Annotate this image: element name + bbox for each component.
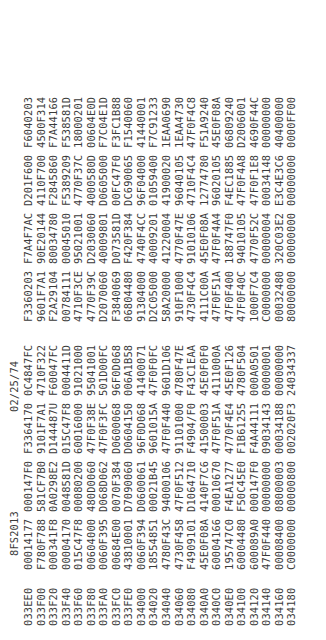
word-group-gap — [173, 322, 186, 338]
row-address: 034120 — [248, 570, 261, 626]
hex-dump-page: 8FS2013 02/25/74 033EE000014177000147F0F… — [0, 0, 326, 640]
dump-row: 033F00F780F788581CF7B09101F7A14710F32296… — [35, 90, 48, 626]
hex-word: D2030060 — [85, 206, 98, 264]
row-address: 034020 — [147, 570, 160, 626]
hex-word: F3840069 — [110, 264, 123, 322]
hex-word: 96F04000 — [135, 148, 148, 206]
word-group-gap — [110, 322, 123, 338]
word-group-gap — [147, 322, 160, 338]
hex-word: 910F1000 — [173, 264, 186, 322]
hex-word: 0048581D — [60, 454, 73, 512]
hex-word: 000341F8 — [47, 512, 60, 570]
hex-word: 47F0F4C8 — [185, 90, 198, 148]
word-group-gap — [47, 322, 60, 338]
hex-word: 501D00FC — [97, 338, 110, 396]
hex-word: 47F0F512 — [173, 454, 186, 512]
hex-word: 96F0D068 — [110, 338, 123, 396]
hex-word: 58A20000 — [160, 264, 173, 322]
hex-word: 96020105 — [210, 148, 223, 206]
hex-word: D0605000 — [97, 148, 110, 206]
hex-word: 00000000 — [273, 338, 286, 396]
hex-word: 1EAA0690 — [160, 90, 173, 148]
hex-word: F7C91233 — [147, 90, 160, 148]
hex-word: 9601015A — [147, 396, 160, 454]
hex-word: 41440001 — [135, 90, 148, 148]
row-address: 0340A0 — [198, 570, 211, 626]
hex-word: 91021000 — [72, 338, 85, 396]
hex-word: 95021001 — [72, 206, 85, 264]
hex-word: 0060F394 — [135, 512, 148, 570]
hex-word: 600089A0 — [248, 512, 261, 570]
hex-word: 60004480 — [235, 512, 248, 570]
hex-word: 95041001 — [85, 338, 98, 396]
dump-row: 0340E0195747C0F4EA12774770F4E445E0F12647… — [223, 90, 236, 626]
hex-word: 41400071 — [135, 338, 148, 396]
hex-word: 40009801 — [97, 206, 110, 264]
dump-row: 0341600000840008000003000341880000000000… — [273, 90, 286, 626]
dump-row: 033EE000014177000147F0F33641700C4847FCF3… — [22, 90, 35, 626]
hex-word: 4740F4CC — [135, 206, 148, 264]
row-address: 033F20 — [47, 570, 60, 626]
row-address: 034080 — [185, 570, 198, 626]
hex-word: 00000004 — [260, 206, 273, 264]
hex-word: 96F0D068 — [135, 396, 148, 454]
hex-word: 43810001 — [122, 512, 135, 570]
hex-word: 47F0F51A — [210, 264, 223, 322]
hex-word: 45E0F126 — [223, 338, 236, 396]
row-address: 034060 — [173, 570, 186, 626]
row-address: 034140 — [260, 570, 273, 626]
row-address: 033F40 — [60, 570, 73, 626]
hex-word: 47F0F1E8 — [248, 148, 261, 206]
hex-word: 4770F52C — [248, 206, 261, 264]
word-group-gap — [135, 322, 148, 338]
hex-word: 24034337 — [285, 338, 298, 396]
row-address: 033FE0 — [122, 570, 135, 626]
word-group-gap — [273, 322, 286, 338]
hex-word: 60004166 — [210, 512, 223, 570]
hex-word: F3360203 — [22, 264, 35, 322]
hex-word: F6040203 — [22, 90, 35, 148]
hex-word: 12774780 — [198, 148, 211, 206]
dump-row: 033F40000041700048581D015C47F80004411D00… — [60, 90, 73, 626]
dump-row: 033FC000684E000070F384D060006896F0D068F3… — [110, 90, 123, 626]
hex-word: D7090060 — [122, 454, 135, 512]
hex-word: 0070F384 — [110, 454, 123, 512]
hex-word: 00784111 — [60, 264, 73, 322]
hex-word: 60016000 — [72, 396, 85, 454]
hex-word: D068D062 — [97, 454, 110, 512]
hex-word: 00014177 — [22, 512, 35, 570]
hex-word: 90E20144 — [35, 206, 48, 264]
dump-row: 0340604730F45847F0F512911010004780F47E91… — [173, 90, 186, 626]
hex-word: 00008400 — [273, 512, 286, 570]
hex-word: 4770F47E — [173, 206, 186, 264]
dump-row: 033FA00060F395D068D06247F0F3FC501D00FCD2… — [97, 90, 110, 626]
row-address: 034100 — [235, 570, 248, 626]
word-group-gap — [198, 322, 211, 338]
hex-word: 45E0F08A — [210, 90, 223, 148]
hex-word: 41220004 — [160, 206, 173, 264]
hex-word: 188747F0 — [223, 206, 236, 264]
hex-word: 4730F458 — [173, 512, 186, 570]
hex-word: 41500003 — [198, 396, 211, 454]
hex-word: 1EAA4730 — [173, 90, 186, 148]
hex-word: 4730F4C4 — [185, 264, 198, 322]
hex-word: 80000000 — [285, 264, 298, 322]
hex-word: 00604E0D — [85, 90, 98, 148]
hex-word: F51A9240 — [198, 90, 211, 148]
hex-word: 9101F7A1 — [35, 396, 48, 454]
dump-row: 033F60015C47F800080200600160009102100047… — [72, 90, 85, 626]
dump-row: 0340404780F43C9400010647F0F4409601D10658… — [160, 90, 173, 626]
hex-word: F50C45E0 — [235, 454, 248, 512]
hex-word: 00010670 — [210, 454, 223, 512]
hex-word: 000147F0 — [248, 454, 261, 512]
hex-word: F60047FC — [47, 338, 60, 396]
hex-word: D144487U — [47, 396, 60, 454]
hex-word: 96040105 — [173, 148, 186, 206]
dump-row: 033F8000604000480D006047F0F38E9504100147… — [85, 90, 98, 626]
dump-row: 03414047F0F440000000000903414300000001C0… — [260, 90, 273, 626]
word-group-gap — [35, 322, 48, 338]
dump-row: 034180C000000000000800002020F32403433780… — [285, 90, 298, 626]
hex-word: 40009201 — [147, 206, 160, 264]
hex-word: 0A0298E2 — [47, 454, 60, 512]
hex-word: 4140F7C6 — [198, 454, 211, 512]
